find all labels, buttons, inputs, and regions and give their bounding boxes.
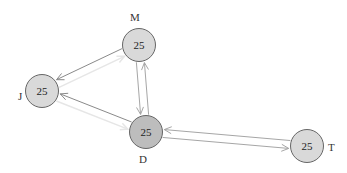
node-j-value: 25	[37, 85, 48, 97]
node-t[interactable]: 25	[290, 129, 324, 163]
edge-d-to-j	[60, 94, 131, 122]
edge-m-to-d	[136, 62, 140, 114]
node-d[interactable]: 25	[129, 115, 163, 149]
node-m-label: M	[130, 12, 140, 23]
edge-d-to-m	[144, 63, 148, 115]
node-t-value: 25	[302, 140, 313, 152]
node-j-label: J	[18, 91, 22, 102]
edge-j-to-m	[59, 56, 124, 87]
edge-j-to-d	[56, 101, 127, 129]
edge-m-to-j	[57, 49, 122, 80]
node-m[interactable]: 25	[122, 28, 156, 62]
node-m-value: 25	[134, 39, 145, 51]
node-j[interactable]: 25	[25, 74, 59, 108]
node-d-label: D	[139, 154, 147, 165]
edges-layer	[56, 49, 290, 152]
node-d-value: 25	[141, 126, 152, 138]
node-t-label: T	[328, 142, 335, 153]
